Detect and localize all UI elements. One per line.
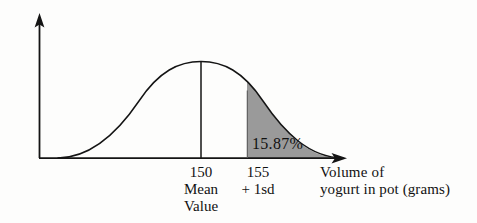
sd-tick-value: 155: [228, 164, 288, 181]
x-axis-label-line1: Volume of: [320, 164, 384, 180]
x-axis-label: Volume of yogurt in pot (grams): [320, 164, 450, 198]
mean-caption-line2: Value: [178, 198, 224, 215]
mean-tick-label-group: 150 Mean Value: [178, 164, 224, 214]
x-axis-label-line2: yogurt in pot (grams): [320, 181, 450, 197]
sd-tick-label-group: 155 + 1sd: [228, 164, 288, 198]
mean-caption-line1: Mean: [178, 181, 224, 198]
shaded-area-percentage-label: 15.87%: [252, 135, 303, 153]
mean-tick-value: 150: [178, 164, 224, 181]
normal-distribution-figure: Frequency 15.87% 150 Mean Value 155 + 1s…: [0, 0, 477, 223]
sd-caption: + 1sd: [228, 181, 288, 198]
